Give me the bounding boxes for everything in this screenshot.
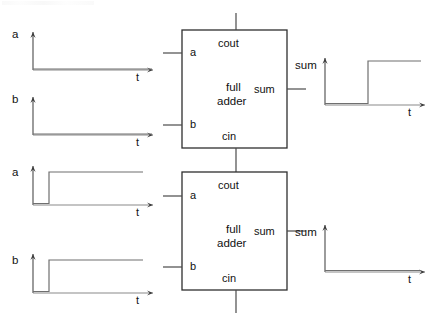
waveform-a-bottom-signal-label: a [12, 166, 18, 178]
waveform-sum-bottom [322, 225, 425, 275]
block-2-name-line2: adder [217, 237, 246, 249]
block-2-input-a-label: a [190, 190, 196, 201]
waveform-a-bottom-time-label: t [136, 207, 139, 218]
signal-trace [325, 61, 421, 104]
waveform-b-top-time-label: t [136, 137, 139, 148]
waveform-b-top-signal-label: b [12, 93, 18, 105]
waveform-sum-top-signal-label: sum [295, 59, 317, 71]
block-1-sum-label: sum [254, 84, 275, 95]
waveform-sum-top [322, 58, 425, 108]
waveform-b-bottom-signal-label: b [12, 254, 18, 266]
block-1-cout-label: cout [218, 38, 239, 49]
signal-trace [33, 260, 143, 292]
block-2-input-b-label: b [190, 261, 196, 272]
diagram-canvas: a t b t a t b t sum t sum t cout a b ful… [0, 0, 437, 325]
block-2-cout-label: cout [218, 180, 239, 191]
waveform-a-top [30, 32, 153, 73]
block-2-name-line1: full [226, 223, 241, 235]
block-1-name-line1: full [226, 81, 241, 93]
block-1-input-a-label: a [190, 47, 196, 58]
signal-trace [33, 172, 143, 204]
waveform-sum-top-time-label: t [408, 107, 411, 118]
waveform-b-bottom-time-label: t [136, 295, 139, 306]
waveform-sum-bottom-signal-label: sum [295, 226, 317, 238]
waveform-b-bottom [30, 254, 153, 296]
waveform-a-bottom [30, 166, 153, 208]
block-1-cin-label: cin [222, 131, 236, 142]
waveform-a-top-time-label: t [136, 72, 139, 83]
block-2-cin-label: cin [222, 273, 236, 284]
block-1-input-b-label: b [190, 119, 196, 130]
waveform-b-top [30, 97, 153, 138]
block-2-sum-label: sum [254, 226, 275, 237]
waveform-sum-bottom-time-label: t [408, 274, 411, 285]
block-1-name-line2: adder [217, 95, 246, 107]
waveform-a-top-signal-label: a [12, 28, 18, 40]
